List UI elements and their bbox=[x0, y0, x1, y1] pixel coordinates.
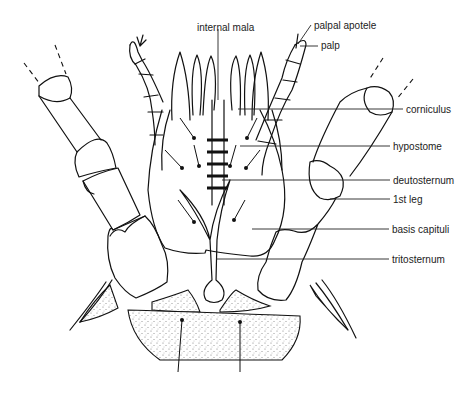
corniculi bbox=[172, 52, 269, 120]
left-palp bbox=[130, 35, 163, 145]
label-basis-capituli: basis capituli bbox=[392, 224, 449, 236]
left-first-leg bbox=[24, 45, 168, 298]
label-corniculus: corniculus bbox=[406, 104, 451, 116]
label-palpal-apotele: palpal apotele bbox=[314, 20, 376, 32]
label-tritosternum: tritosternum bbox=[392, 254, 445, 266]
basis-capituli bbox=[148, 110, 285, 256]
leader-lines bbox=[216, 25, 403, 259]
label-hypostome: hypostome bbox=[393, 141, 442, 153]
sternal-plates bbox=[70, 280, 356, 372]
right-first-leg bbox=[258, 58, 413, 300]
label-deutosternum: deutosternum bbox=[393, 175, 454, 187]
label-internal-mala: internal mala bbox=[197, 22, 254, 34]
label-palp: palp bbox=[321, 40, 340, 52]
label-first-leg: 1st leg bbox=[393, 194, 422, 206]
tritosternum bbox=[180, 180, 230, 303]
